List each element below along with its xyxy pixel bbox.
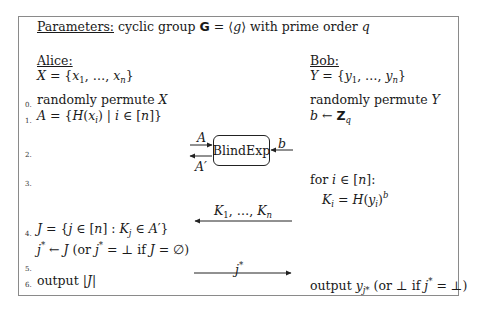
bob-step-3-compute: Ki = H(yi)b (322, 188, 388, 211)
alice-step-6-output: output |J| (37, 274, 96, 288)
message-j-star: j* (235, 258, 243, 277)
message-k-values: K1, …, Kn (214, 204, 272, 222)
alice-step-4-select: j* ← J (or j* = ⊥ if J = ∅) (37, 238, 189, 257)
bob-step-6-output: output yj* (or ⊥ if j* = ⊥) (310, 274, 467, 297)
bob-step-3-loop: for i ∈ [n]: (310, 173, 375, 187)
